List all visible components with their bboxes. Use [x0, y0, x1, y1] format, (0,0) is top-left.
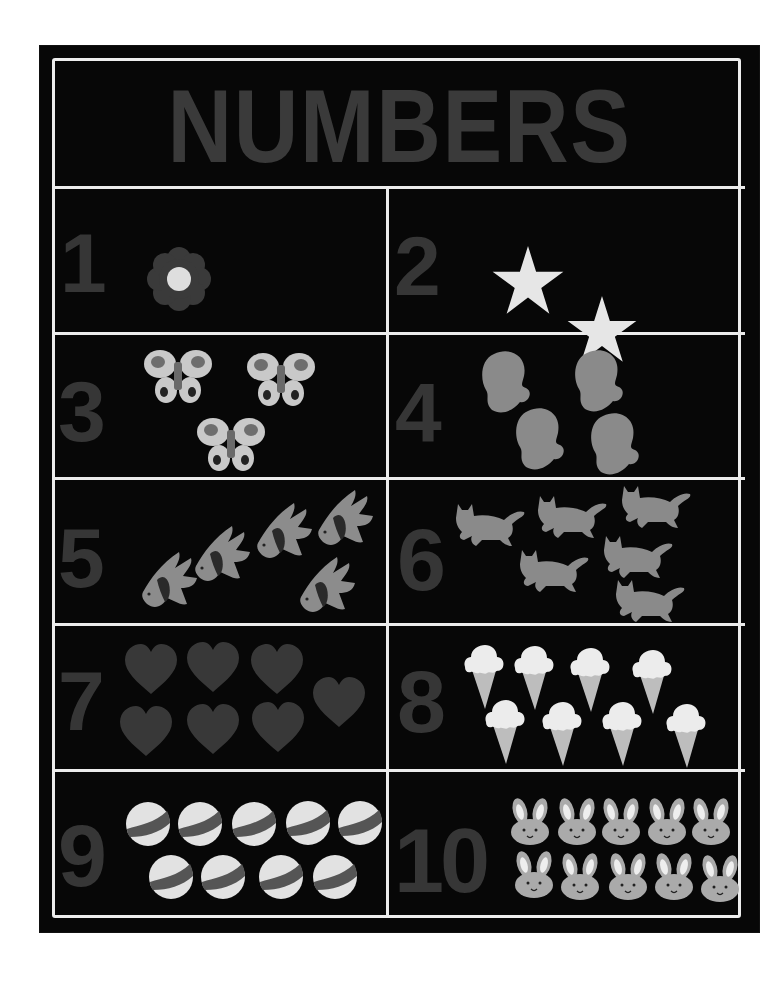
- cat-icon: [612, 576, 690, 624]
- butterfly-icon: [243, 349, 319, 411]
- ball-icon: [231, 801, 277, 847]
- ball-icon: [337, 800, 383, 846]
- bunny-icon: [645, 798, 689, 846]
- fish-icon: [313, 486, 375, 550]
- flower-icon: [144, 244, 214, 314]
- bunny-icon: [652, 853, 696, 901]
- bunny-icon: [512, 851, 556, 899]
- ice-cream-icon: [484, 700, 526, 766]
- heart-icon: [249, 644, 305, 696]
- bunny-icon: [558, 853, 602, 901]
- row-divider: [54, 769, 745, 772]
- mitten-icon: [589, 412, 645, 480]
- cat-icon: [516, 546, 594, 594]
- numeral-1: 1: [60, 221, 107, 305]
- bunny-icon: [599, 798, 643, 846]
- ice-cream-icon: [541, 702, 583, 768]
- column-divider: [386, 186, 389, 916]
- ball-icon: [177, 801, 223, 847]
- fish-icon: [190, 522, 252, 586]
- fish-icon: [295, 553, 357, 617]
- cat-icon: [600, 532, 678, 580]
- butterfly-icon: [140, 346, 216, 408]
- bunny-icon: [606, 853, 650, 901]
- numeral-8: 8: [397, 658, 446, 746]
- numeral-4: 4: [395, 371, 442, 455]
- ball-icon: [125, 801, 171, 847]
- cat-icon: [452, 500, 530, 548]
- numeral-2: 2: [394, 224, 441, 308]
- row-divider: [54, 186, 745, 189]
- ball-icon: [200, 854, 246, 900]
- heart-icon: [250, 702, 306, 754]
- cat-icon: [618, 482, 696, 530]
- numeral-6: 6: [397, 516, 446, 604]
- heart-icon: [123, 644, 179, 696]
- bunny-icon: [508, 798, 552, 846]
- ball-icon: [285, 800, 331, 846]
- ball-icon: [258, 854, 304, 900]
- heart-icon: [118, 706, 174, 758]
- numeral-9: 9: [58, 812, 107, 900]
- mitten-icon: [573, 349, 629, 417]
- mitten-icon: [514, 407, 570, 475]
- numeral-7: 7: [58, 659, 105, 743]
- numeral-5: 5: [58, 516, 105, 600]
- bunny-icon: [689, 798, 733, 846]
- ice-cream-icon: [665, 704, 707, 770]
- ball-icon: [148, 854, 194, 900]
- bunny-icon: [698, 855, 742, 903]
- ball-icon: [312, 854, 358, 900]
- heart-icon: [185, 642, 241, 694]
- numeral-3: 3: [58, 368, 106, 454]
- heart-icon: [185, 704, 241, 756]
- star-icon: [490, 246, 566, 316]
- numeral-10: 10: [394, 816, 486, 906]
- heart-icon: [311, 677, 367, 729]
- row-divider: [54, 332, 745, 335]
- butterfly-icon: [193, 414, 269, 476]
- numbers-quilt: NUMBERS 1 2 3 4 5 6 7: [40, 46, 759, 932]
- bunny-icon: [555, 798, 599, 846]
- ice-cream-icon: [601, 702, 643, 768]
- quilt-title: NUMBERS: [90, 74, 708, 178]
